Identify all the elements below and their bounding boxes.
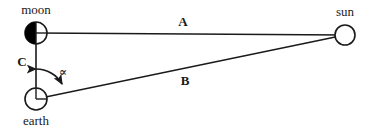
moon-symbol [25, 22, 47, 44]
sun-label: sun [336, 4, 355, 19]
earth-symbol [25, 88, 47, 110]
segment-label-c: C [17, 54, 26, 69]
sun-circle-outline [335, 25, 355, 45]
segment-line-a [36, 33, 345, 35]
moon-earth-sun-diagram: moon sun earth A B C ∝ [0, 0, 370, 130]
segment-label-b: B [181, 73, 190, 88]
sun-symbol [335, 25, 355, 45]
segment-lines [36, 33, 345, 99]
earth-label: earth [23, 113, 49, 128]
angle-label-alpha: ∝ [59, 65, 67, 79]
segment-label-a: A [178, 14, 188, 29]
moon-label: moon [21, 2, 51, 17]
diagram-canvas: moon sun earth A B C ∝ [0, 0, 370, 130]
segment-line-b [36, 35, 345, 99]
